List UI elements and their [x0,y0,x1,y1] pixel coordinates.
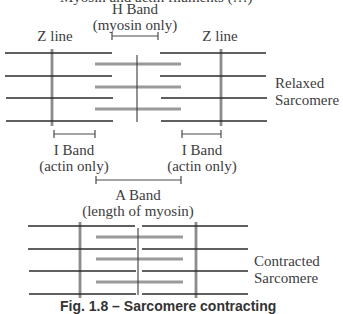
i-band-right-title: I Band [160,143,244,158]
a-band-title: A Band [78,188,198,203]
contracted-myosin-filaments [96,237,183,282]
i-band-left-label: I Band (actin only) [32,143,116,174]
i-band-left-title: I Band [32,143,116,158]
relaxed-sarcomere [5,49,267,126]
i-band-left-bracket [54,130,95,138]
figure-caption: Fig. 1.8 – Sarcomere contracting [60,298,276,314]
contracted-sarcomere-label: Contracted Sarcomere [254,254,320,286]
relaxed-line1: Relaxed [275,76,339,91]
z-line-left-label: Z line [20,29,90,44]
i-band-right-subtitle: (actin only) [160,159,244,174]
h-band-label: H Band (myosin only) [90,2,180,33]
i-band-right-label: I Band (actin only) [160,143,244,174]
i-band-right-bracket [182,130,221,138]
a-band-subtitle: (length of myosin) [78,204,198,219]
relaxed-line2: Sarcomere [275,93,339,108]
contracted-line2: Sarcomere [254,271,320,286]
contracted-sarcomere [28,222,248,298]
h-band-bracket [112,32,158,40]
contracted-line1: Contracted [254,254,320,269]
a-band-label: A Band (length of myosin) [78,188,198,219]
h-band-title: H Band [90,2,180,17]
z-line-right-label: Z line [185,29,255,44]
h-band-subtitle: (myosin only) [90,18,180,33]
relaxed-sarcomere-label: Relaxed Sarcomere [275,76,339,108]
i-band-left-subtitle: (actin only) [32,159,116,174]
a-band-bracket [96,176,181,184]
relaxed-myosin-filaments [95,64,181,109]
